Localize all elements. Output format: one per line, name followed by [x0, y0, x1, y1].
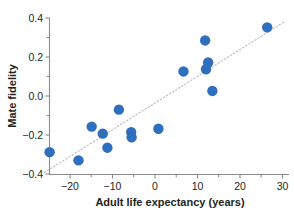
data-point — [153, 124, 163, 134]
data-point — [102, 142, 112, 152]
data-points-layer — [44, 22, 272, 165]
data-point — [44, 147, 54, 157]
x-axis-title: Adult life expectancy (years) — [95, 196, 245, 208]
x-tick-label-2: 0 — [152, 180, 158, 192]
x-tick-label-4: 20 — [234, 180, 246, 192]
data-point — [178, 66, 188, 76]
x-tick-label-5: 30 — [277, 180, 289, 192]
x-axis-tick-labels: −20 −10 0 10 20 30 — [61, 180, 288, 192]
scatter-plot-figure: 0.4 0.2 0.0 −0.2 −0.4 −20 −10 0 10 20 30… — [0, 0, 294, 215]
data-point — [126, 132, 136, 142]
x-tick-label-0: −20 — [61, 180, 79, 192]
y-tick-label-1: 0.2 — [28, 51, 43, 63]
y-tick-label-0: 0.4 — [28, 12, 43, 24]
y-axis-tick-labels: 0.4 0.2 0.0 −0.2 −0.4 — [22, 12, 43, 180]
data-point — [86, 121, 96, 131]
data-point — [73, 155, 83, 165]
y-tick-label-3: −0.2 — [22, 129, 43, 141]
x-tick-label-3: 10 — [192, 180, 204, 192]
y-tick-label-2: 0.0 — [28, 90, 43, 102]
x-tick-label-1: −10 — [104, 180, 122, 192]
data-point — [207, 86, 217, 96]
chart-canvas: 0.4 0.2 0.0 −0.2 −0.4 −20 −10 0 10 20 30… — [0, 0, 294, 215]
trend-line — [45, 21, 286, 172]
y-tick-label-4: −0.4 — [22, 168, 43, 180]
data-point — [200, 35, 210, 45]
data-point — [114, 104, 124, 114]
data-point — [203, 57, 213, 67]
data-point — [98, 128, 108, 138]
data-point — [262, 22, 272, 32]
y-axis-title: Mate fidelity — [6, 63, 18, 127]
